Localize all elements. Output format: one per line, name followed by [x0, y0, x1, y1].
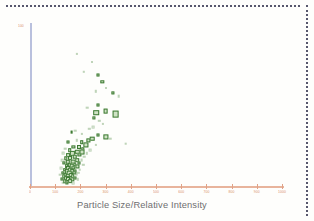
data-point	[88, 128, 90, 130]
data-point	[95, 90, 97, 92]
data-point	[95, 144, 97, 146]
x-tick-label: 600	[178, 190, 184, 194]
data-point	[87, 139, 90, 142]
x-tick-mark	[80, 184, 81, 189]
x-axis-title: Particle Size/Relative Intensity	[0, 200, 284, 210]
data-point	[102, 123, 104, 125]
data-point	[62, 181, 65, 184]
data-point	[96, 103, 99, 106]
x-tick-mark	[206, 184, 207, 189]
x-tick-label: 400	[128, 190, 134, 194]
data-point	[78, 153, 81, 156]
x-tick-mark	[131, 184, 132, 189]
x-tick-label: 0	[29, 190, 31, 194]
data-point	[124, 142, 127, 145]
data-point	[85, 152, 87, 154]
data-point	[96, 74, 99, 77]
data-point	[89, 149, 92, 152]
data-point	[64, 147, 67, 150]
y-axis-line	[30, 23, 32, 187]
data-point	[66, 140, 69, 143]
x-tick-mark	[30, 184, 31, 189]
scatter-plot: 100 01002003004005006007008009001000 Par…	[0, 0, 314, 221]
data-point	[90, 136, 95, 141]
data-point	[76, 139, 78, 141]
data-point	[66, 181, 69, 184]
data-point	[98, 120, 100, 122]
data-point	[101, 80, 104, 83]
data-point	[112, 91, 115, 94]
x-tick-mark	[181, 184, 182, 189]
y-axis-tick-label: 100	[18, 24, 24, 28]
data-point	[72, 181, 75, 184]
data-point	[86, 106, 89, 109]
x-tick-mark	[55, 184, 56, 189]
data-point	[96, 134, 99, 137]
data-point	[105, 87, 107, 89]
x-tick-label: 200	[77, 190, 83, 194]
data-point	[70, 131, 73, 134]
x-tick-label: 700	[203, 190, 209, 194]
data-point	[117, 95, 120, 98]
scanned-page: 100 01002003004005006007008009001000 Par…	[0, 0, 314, 221]
x-tick-mark	[232, 184, 233, 189]
data-point	[93, 116, 96, 119]
x-tick-label: 100	[52, 190, 58, 194]
x-tick-label: 900	[254, 190, 260, 194]
x-tick-mark	[156, 184, 157, 189]
data-point	[103, 109, 108, 114]
x-tick-label: 300	[103, 190, 109, 194]
data-point	[82, 71, 84, 73]
data-point	[93, 110, 99, 116]
data-point	[72, 145, 75, 148]
data-point	[103, 135, 108, 140]
data-point	[83, 155, 86, 158]
data-point	[92, 126, 95, 129]
x-tick-mark	[282, 184, 283, 189]
data-point	[79, 168, 82, 171]
data-point	[77, 178, 79, 180]
data-point	[109, 137, 112, 140]
data-point	[81, 133, 83, 135]
data-point	[91, 61, 93, 63]
data-point	[76, 53, 78, 55]
data-point	[62, 152, 65, 155]
data-point	[112, 111, 119, 118]
x-tick-label: 800	[229, 190, 235, 194]
data-point	[82, 164, 84, 166]
data-point	[74, 129, 77, 132]
x-tick-mark	[257, 184, 258, 189]
x-tick-label: 1000	[278, 190, 286, 194]
x-tick-mark	[106, 184, 107, 189]
x-tick-label: 500	[153, 190, 159, 194]
